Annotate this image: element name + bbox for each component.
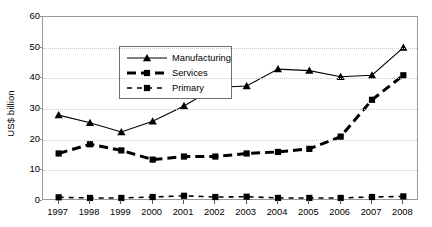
y-axis-tick-label: 0 [4,195,40,205]
x-axis-tick-mark [340,200,341,204]
x-axis-tick-mark [402,200,403,204]
data-point-marker [244,194,250,200]
data-point-marker [181,153,187,159]
x-axis-tick-mark [152,200,153,204]
x-axis-tick-mark [371,200,372,204]
legend-label: Primary [169,83,204,93]
x-axis-tick-labels: 1997199819992000200120022003200420052006… [42,200,418,226]
y-axis-tick-label: 40 [4,73,40,83]
data-point-marker [243,82,251,89]
legend-item: Primary [125,80,227,95]
x-axis-tick-label: 2008 [380,207,424,217]
data-point-marker [87,141,93,147]
x-axis-tick-mark [214,200,215,204]
data-point-marker [118,147,124,153]
y-axis-tick-label: 10 [4,165,40,175]
y-axis-tick-label: 50 [4,42,40,52]
data-point-marker [244,150,250,156]
legend-swatch [125,51,169,65]
data-point-marker [369,97,375,103]
series-line [59,196,404,198]
data-point-marker [400,193,406,199]
data-point-marker [56,150,62,156]
legend-label: Services [169,68,208,78]
x-axis-tick-mark [183,200,184,204]
x-axis-tick-mark [246,200,247,204]
gridline [43,78,417,79]
y-axis-tick-label: 20 [4,134,40,144]
y-axis-tick-labels: 0102030405060 [0,16,40,200]
data-point-marker [306,146,312,152]
data-point-marker [181,193,187,199]
data-point-marker [55,111,63,118]
data-point-marker [212,153,218,159]
data-point-marker [149,117,157,124]
data-point-marker [150,157,156,163]
x-axis-tick-mark [89,200,90,204]
y-axis-tick-label: 30 [4,103,40,113]
plot-area: ManufacturingServicesPrimary [42,16,418,200]
data-point-marker [274,65,282,72]
gridline [43,48,417,49]
x-axis-tick-mark [58,200,59,204]
x-axis-tick-mark [120,200,121,204]
gridline [43,109,417,110]
chart-figure: US$ billion 0102030405060 ManufacturingS… [0,0,432,227]
x-axis-tick-mark [308,200,309,204]
data-point-marker [275,149,281,155]
legend-item: Manufacturing [125,50,227,65]
legend-label: Manufacturing [169,53,231,63]
gridline [43,140,417,141]
gridline [43,170,417,171]
x-axis-tick-mark [277,200,278,204]
legend-swatch [125,81,169,95]
y-axis-tick-label: 60 [4,11,40,21]
chart-legend: ManufacturingServicesPrimary [119,46,232,99]
